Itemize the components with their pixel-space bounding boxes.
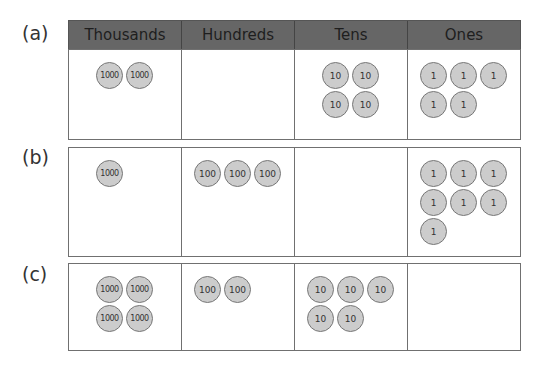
tens-cell: 10101010 — [295, 50, 408, 139]
place-value-counter: 1 — [450, 160, 477, 187]
place-value-counter: 10 — [352, 91, 379, 118]
place-value-counter: 1000 — [96, 305, 123, 332]
place-value-header: Thousands Hundreds Tens Ones — [68, 20, 521, 50]
thousands-cell: 1000100010001000 — [69, 264, 182, 350]
thousands-cell: 10001000 — [69, 50, 182, 139]
ones-cell: 1111111 — [408, 148, 520, 256]
place-value-counter: 10 — [322, 62, 349, 89]
place-value-counter: 1000 — [126, 305, 153, 332]
place-value-counter: 1 — [450, 189, 477, 216]
place-value-counter: 1000 — [96, 62, 123, 89]
place-value-table-a: 100010001010101011111 — [68, 49, 521, 140]
place-value-counter: 10 — [322, 91, 349, 118]
place-value-counter: 10 — [352, 62, 379, 89]
place-value-counter: 100 — [194, 160, 221, 187]
place-value-counter: 100 — [194, 276, 221, 303]
header-hundreds: Hundreds — [182, 21, 295, 49]
row-label-b: (b) — [22, 146, 49, 168]
place-value-counter: 100 — [224, 276, 251, 303]
row-label-c: (c) — [22, 263, 47, 285]
tens-cell — [295, 148, 408, 256]
place-value-counter: 1 — [420, 160, 447, 187]
ones-cell: 11111 — [408, 50, 520, 139]
place-value-counter: 1 — [420, 91, 447, 118]
place-value-counter: 10 — [307, 305, 334, 332]
hundreds-cell — [182, 50, 295, 139]
place-value-counter: 1000 — [126, 276, 153, 303]
place-value-counter: 1 — [480, 62, 507, 89]
tens-cell: 1010101010 — [295, 264, 408, 350]
row-label-a: (a) — [22, 22, 48, 44]
place-value-counter: 10 — [337, 276, 364, 303]
place-value-table-c: 10001000100010001001001010101010 — [68, 263, 521, 351]
header-ones: Ones — [408, 21, 520, 49]
place-value-counter: 10 — [367, 276, 394, 303]
header-thousands: Thousands — [69, 21, 182, 49]
place-value-counter: 1 — [420, 189, 447, 216]
place-value-counter: 10 — [337, 305, 364, 332]
place-value-counter: 1 — [420, 62, 447, 89]
place-value-counter: 1 — [480, 160, 507, 187]
place-value-counter: 1 — [450, 62, 477, 89]
place-value-counter: 100 — [254, 160, 281, 187]
place-value-counter: 1000 — [96, 160, 123, 187]
place-value-counter: 1000 — [96, 276, 123, 303]
place-value-counter: 1 — [420, 218, 447, 245]
place-value-counter: 1 — [480, 189, 507, 216]
place-value-counter: 100 — [224, 160, 251, 187]
place-value-table-b: 10001001001001111111 — [68, 147, 521, 257]
ones-cell — [408, 264, 520, 350]
header-tens: Tens — [295, 21, 408, 49]
hundreds-cell: 100100100 — [182, 148, 295, 256]
thousands-cell: 1000 — [69, 148, 182, 256]
place-value-counter: 10 — [307, 276, 334, 303]
place-value-counter: 1000 — [126, 62, 153, 89]
hundreds-cell: 100100 — [182, 264, 295, 350]
place-value-counter: 1 — [450, 91, 477, 118]
